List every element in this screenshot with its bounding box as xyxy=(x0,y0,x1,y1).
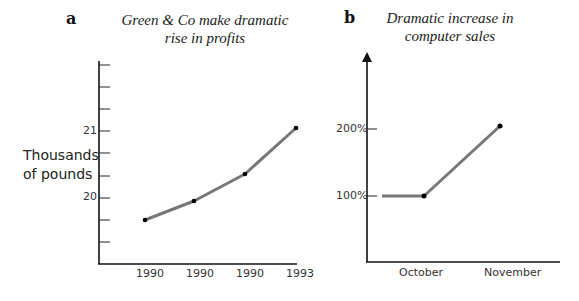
chart-a-xtick: 1990 xyxy=(186,267,214,280)
panel-letter-b: b xyxy=(344,8,355,27)
chart-a-ytick-20: 20 xyxy=(83,190,97,203)
chart-a-xtick: 1990 xyxy=(236,267,264,280)
chart-b-series xyxy=(382,124,503,199)
chart-b-title-line2: computer sales xyxy=(380,27,520,45)
data-point xyxy=(192,199,197,204)
chart-b-axes xyxy=(362,52,560,262)
chart-b-ytick-100: 100% xyxy=(336,189,367,202)
data-point xyxy=(294,126,299,131)
chart-b-title: Dramatic increase in computer sales xyxy=(380,9,520,45)
chart-a-axes xyxy=(98,61,297,264)
chart-a-ylabel: Thousands of pounds xyxy=(23,146,99,184)
data-point xyxy=(422,194,427,199)
chart-a-series xyxy=(143,126,299,223)
chart-b-ytick-200: 200% xyxy=(336,122,367,135)
chart-a-ylabel-line2: of pounds xyxy=(23,165,99,184)
data-point xyxy=(498,124,503,129)
chart-a-title: Green & Co make dramatic rise in profits xyxy=(115,11,295,47)
chart-a-title-line1: Green & Co make dramatic xyxy=(115,11,295,29)
chart-a-ytick-21: 21 xyxy=(83,124,97,137)
chart-a-ylabel-line1: Thousands xyxy=(23,146,99,165)
chart-b-title-line1: Dramatic increase in xyxy=(380,9,520,27)
chart-a-xtick: 1993 xyxy=(286,267,314,280)
data-point xyxy=(243,172,248,177)
data-point xyxy=(143,218,148,223)
chart-b-xtick-november: November xyxy=(484,266,541,279)
arrow-up-icon xyxy=(362,52,372,62)
chart-b-xtick-october: October xyxy=(399,266,443,279)
chart-a-title-line2: rise in profits xyxy=(115,29,295,47)
panel-letter-a: a xyxy=(66,9,76,28)
chart-a-xtick: 1990 xyxy=(136,267,164,280)
